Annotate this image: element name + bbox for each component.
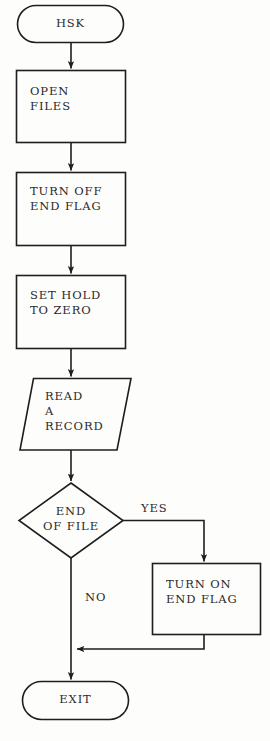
node-turn-on-end-flag-shape [153,564,261,635]
node-end-of-file-shape [19,483,123,558]
flowchart-canvas [0,0,270,741]
node-read-a-record-shape [20,379,131,451]
edge-turn-on-end-flag-to-merge [77,635,204,650]
node-turn-off-end-flag-shape [17,173,126,246]
node-start-shape [18,6,124,43]
node-exit-shape [23,682,129,720]
edge-label-yes: YES [141,501,168,515]
edge-yes-to-turn-on-end-flag [123,521,204,562]
edge-label-no: NO [85,590,106,604]
flowchart-diagram: HSK OPEN FILES TURN OFF END FLAG SET HOL… [0,0,270,741]
node-set-hold-to-zero-shape [17,276,126,349]
node-open-files-shape [17,71,126,143]
